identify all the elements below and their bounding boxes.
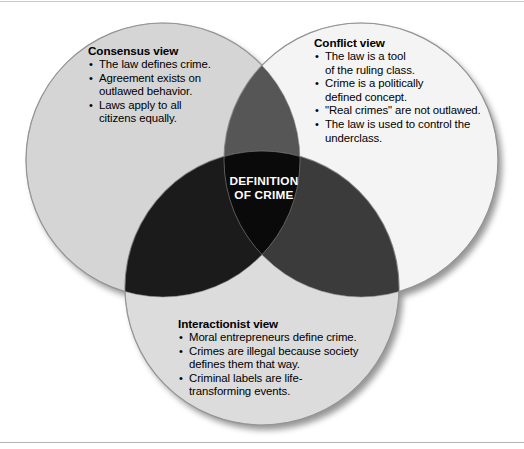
interactionist-view-list: • Moral entrepreneurs define crime. • Cr… bbox=[178, 331, 396, 398]
interactionist-view-text-block: Interactionist view • Moral entrepreneur… bbox=[178, 317, 396, 399]
list-item-line: underclass. bbox=[325, 132, 382, 144]
bullet-icon: • bbox=[179, 331, 183, 344]
list-item: • The law is used to control the undercl… bbox=[314, 118, 510, 145]
list-item: • Moral entrepreneurs define crime. bbox=[178, 331, 396, 344]
list-item-line: The law is used to control the bbox=[325, 118, 470, 130]
bullet-icon: • bbox=[89, 72, 93, 85]
list-item-line: transforming events. bbox=[189, 385, 290, 397]
list-item-line: of the ruling class. bbox=[325, 64, 415, 76]
list-item: • Agreement exists on outlawed behavior. bbox=[88, 72, 256, 99]
interactionist-view-heading: Interactionist view bbox=[178, 317, 396, 330]
list-item-line: Moral entrepreneurs define crime. bbox=[189, 331, 357, 343]
list-item-line: Agreement exists on bbox=[99, 72, 201, 84]
bullet-icon: • bbox=[315, 77, 319, 90]
bullet-icon: • bbox=[179, 372, 183, 385]
bullet-icon: • bbox=[315, 104, 319, 117]
conflict-view-list: • The law is a tool of the ruling class.… bbox=[314, 50, 510, 145]
center-label-line-2: OF CRIME bbox=[212, 189, 316, 203]
list-item: • Laws apply to all citizens equally. bbox=[88, 99, 256, 126]
bottom-divider-rule bbox=[0, 442, 524, 443]
list-item-line: defines them that way. bbox=[189, 358, 300, 370]
bullet-icon: • bbox=[89, 99, 93, 112]
list-item-line: Criminal labels are life- bbox=[189, 372, 302, 384]
list-item: • Crimes are illegal because society def… bbox=[178, 345, 396, 372]
list-item: • The law defines crime. bbox=[88, 58, 256, 71]
conflict-view-heading: Conflict view bbox=[314, 36, 510, 49]
list-item-line: Crime is a politically bbox=[325, 77, 423, 89]
list-item-line: The law defines crime. bbox=[99, 58, 211, 70]
venn-diagram-figure: Consensus view • The law defines crime. … bbox=[0, 0, 524, 449]
conflict-view-text-block: Conflict view • The law is a tool of the… bbox=[314, 36, 510, 145]
list-item-line: defined concept. bbox=[325, 91, 407, 103]
definition-of-crime-label: DEFINITION OF CRIME bbox=[212, 175, 316, 202]
bullet-icon: • bbox=[315, 118, 319, 131]
bullet-icon: • bbox=[89, 58, 93, 71]
list-item: • Crime is a politically defined concept… bbox=[314, 77, 510, 104]
list-item-line: The law is a tool bbox=[325, 50, 406, 62]
bullet-icon: • bbox=[315, 50, 319, 63]
center-label-line-1: DEFINITION bbox=[212, 175, 316, 189]
list-item-line: outlawed behavior. bbox=[99, 85, 192, 97]
consensus-view-list: • The law defines crime. • Agreement exi… bbox=[88, 58, 256, 125]
list-item: • The law is a tool of the ruling class. bbox=[314, 50, 510, 77]
list-item-line: citizens equally. bbox=[99, 112, 177, 124]
consensus-view-heading: Consensus view bbox=[88, 44, 256, 57]
bullet-icon: • bbox=[179, 345, 183, 358]
list-item-line: Laws apply to all bbox=[99, 99, 182, 111]
list-item-line: "Real crimes" are not outlawed. bbox=[325, 104, 481, 116]
list-item: • "Real crimes" are not outlawed. bbox=[314, 104, 510, 117]
list-item-line: Crimes are illegal because society bbox=[189, 345, 358, 357]
list-item: • Criminal labels are life- transforming… bbox=[178, 372, 396, 399]
consensus-view-text-block: Consensus view • The law defines crime. … bbox=[88, 44, 256, 126]
